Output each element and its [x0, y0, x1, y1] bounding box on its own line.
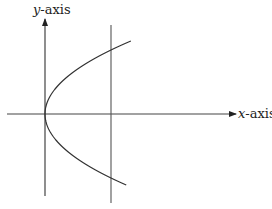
parabola-curve	[45, 41, 131, 185]
x-axis-label: x-axis	[238, 106, 272, 121]
x-axis-label-suffix: -axis	[245, 106, 272, 121]
diagram-canvas: y-axis x-axis	[0, 0, 272, 209]
y-axis-label: y-axis	[32, 2, 71, 17]
y-axis-label-suffix: -axis	[40, 2, 70, 17]
